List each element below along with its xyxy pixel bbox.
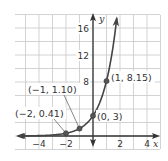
- data-point: [77, 126, 82, 131]
- x-tick-label: −2: [59, 139, 72, 149]
- data-point: [90, 113, 95, 118]
- x-tick-label: 4: [144, 139, 150, 149]
- y-tick-label: 12: [78, 51, 89, 61]
- point-label: (0, 3): [97, 111, 123, 122]
- exponential-chart: y x −4 −2 2 4 8 12 16 (−2, 0.41) (−1, 1.…: [0, 0, 168, 161]
- y-tick-label: 16: [78, 24, 90, 34]
- x-axis-label: x: [153, 138, 159, 149]
- x-tick-label: 2: [117, 139, 123, 149]
- y-tick-label: 8: [83, 77, 89, 87]
- y-axis-label: y: [98, 13, 105, 24]
- point-label: (−2, 0.41): [15, 108, 64, 119]
- point-label: (−1, 1.10): [28, 84, 77, 95]
- data-point: [63, 131, 68, 136]
- data-point: [104, 78, 109, 83]
- x-tick-label: −4: [32, 139, 46, 149]
- labels: y x −4 −2 2 4 8 12 16 (−2, 0.41) (−1, 1.…: [14, 13, 159, 149]
- point-label: (1, 8.15): [111, 72, 152, 83]
